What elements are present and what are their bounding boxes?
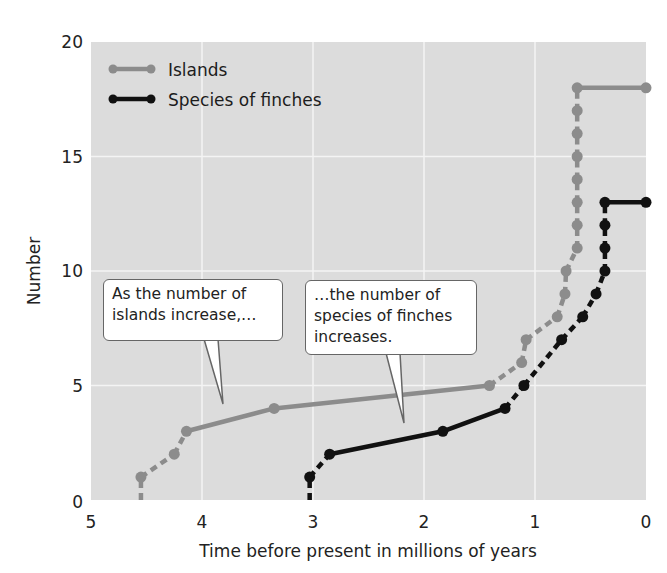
x-axis-label: Time before present in millions of years	[198, 541, 537, 561]
data-point	[572, 174, 583, 185]
data-point	[559, 288, 570, 299]
data-point	[169, 449, 180, 460]
data-point	[599, 266, 610, 277]
y-tick-label: 5	[72, 376, 83, 396]
data-point	[304, 472, 315, 483]
y-tick-label: 10	[61, 261, 83, 281]
callout-finches: …the number of species of finches increa…	[305, 280, 477, 355]
data-point	[556, 334, 567, 345]
finches-marker-icon	[109, 95, 118, 104]
data-point	[572, 151, 583, 162]
data-point	[599, 243, 610, 254]
x-tick-label: 4	[197, 512, 208, 532]
data-point	[572, 197, 583, 208]
y-axis-label: Number	[24, 237, 44, 305]
data-point	[599, 220, 610, 231]
data-point	[572, 220, 583, 231]
data-point	[269, 403, 280, 414]
data-point	[572, 82, 583, 93]
data-point	[437, 426, 448, 437]
y-tick-label: 0	[72, 492, 83, 512]
data-point	[572, 128, 583, 139]
data-point	[484, 380, 495, 391]
data-point	[552, 311, 563, 322]
data-point	[599, 197, 610, 208]
data-point	[641, 197, 652, 208]
data-point	[518, 380, 529, 391]
data-point	[500, 403, 511, 414]
y-tick-label: 15	[61, 147, 83, 167]
x-tick-label: 2	[419, 512, 430, 532]
x-tick-label: 1	[530, 512, 541, 532]
y-axis-ticks: 05101520	[61, 32, 83, 512]
data-point	[181, 426, 192, 437]
islands-marker-icon	[109, 65, 118, 74]
svg-text:Islands: Islands	[168, 60, 228, 80]
data-point	[324, 449, 335, 460]
x-tick-label: 0	[641, 512, 652, 532]
x-tick-label: 5	[86, 512, 97, 532]
data-point	[572, 105, 583, 116]
svg-text:Species of finches: Species of finches	[168, 90, 322, 110]
data-point	[572, 243, 583, 254]
data-point	[577, 311, 588, 322]
data-point	[135, 472, 146, 483]
y-tick-label: 20	[61, 32, 83, 52]
x-axis-ticks: 543210	[86, 512, 652, 532]
data-point	[516, 357, 527, 368]
data-point	[641, 82, 652, 93]
data-point	[591, 288, 602, 299]
data-point	[561, 266, 572, 277]
x-tick-label: 3	[308, 512, 319, 532]
callout-islands: As the number of islands increase,…	[103, 279, 283, 341]
data-point	[521, 334, 532, 345]
